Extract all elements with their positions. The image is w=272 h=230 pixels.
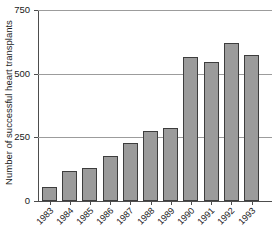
- x-axis-tick-label: 1983: [30, 205, 55, 230]
- bar: [224, 43, 239, 201]
- bar: [123, 143, 138, 201]
- bar: [163, 128, 178, 201]
- y-axis-tick-label: 0: [0, 195, 30, 206]
- x-axis-line: [38, 201, 272, 202]
- x-axis-tick-label: 1992: [211, 205, 236, 230]
- x-axis-tick: [231, 202, 232, 205]
- bar: [82, 168, 97, 201]
- bar-chart: Number of successful heart transplants 0…: [0, 0, 272, 230]
- x-axis-tick: [252, 202, 253, 205]
- x-axis-tick: [191, 202, 192, 205]
- y-axis-title: Number of successful heart transplants: [0, 0, 16, 205]
- bar: [62, 171, 77, 201]
- plot-area: [38, 10, 272, 202]
- x-axis-tick: [70, 202, 71, 205]
- bar: [183, 57, 198, 201]
- x-axis-tick-label: 1993: [232, 205, 257, 230]
- bar: [143, 131, 158, 201]
- x-axis-tick-label: 1984: [50, 205, 75, 230]
- y-axis-title-label: Number of successful heart transplants: [3, 20, 14, 185]
- y-axis-tick-label: 750: [0, 4, 30, 15]
- x-axis-tick: [90, 202, 91, 205]
- y-axis-tick-label: 500: [0, 68, 30, 79]
- x-axis-tick: [211, 202, 212, 205]
- bar: [204, 62, 219, 201]
- x-axis-tick: [110, 202, 111, 205]
- y-axis-tick-label: 250: [0, 131, 30, 142]
- x-axis-tick: [151, 202, 152, 205]
- y-axis-tick: [34, 201, 38, 202]
- x-axis-tick-label: 1988: [131, 205, 156, 230]
- bar: [103, 156, 118, 201]
- gridline: [38, 10, 272, 11]
- y-axis-tick: [34, 137, 38, 138]
- bar: [244, 55, 259, 201]
- y-axis-tick: [34, 10, 38, 11]
- x-axis-tick: [50, 202, 51, 205]
- x-axis-tick-label: 1987: [110, 205, 135, 230]
- bar: [42, 187, 57, 201]
- x-axis-tick-label: 1989: [151, 205, 176, 230]
- y-axis-line: [38, 10, 39, 202]
- x-axis-tick: [130, 202, 131, 205]
- x-axis-tick: [171, 202, 172, 205]
- y-axis-tick: [34, 74, 38, 75]
